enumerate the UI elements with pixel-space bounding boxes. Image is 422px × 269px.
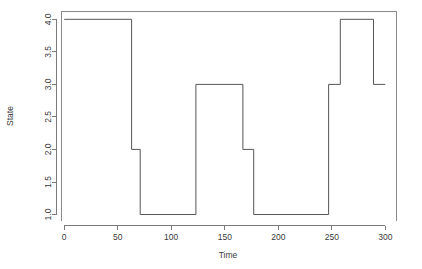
y-axis: 1.01.52.02.53.03.54.0: [43, 13, 56, 220]
y-tick-label: 4.0: [43, 13, 53, 25]
y-axis-title: State: [5, 106, 15, 126]
chart-canvas: 050100150200250300 1.01.52.02.53.03.54.0…: [0, 0, 422, 269]
y-tick-label: 1.5: [43, 176, 53, 188]
data-series-state: [64, 19, 385, 214]
x-tick-label: 100: [164, 232, 178, 242]
y-tick-label: 2.5: [43, 111, 53, 123]
x-tick-label: 150: [218, 232, 232, 242]
y-tick-label: 3.0: [43, 78, 53, 90]
x-axis-title: Time: [219, 250, 238, 260]
state-time-step-chart: 050100150200250300 1.01.52.02.53.03.54.0…: [0, 0, 422, 269]
x-tick-label: 0: [62, 232, 67, 242]
y-tick-label: 3.5: [43, 46, 53, 58]
x-tick-label: 250: [325, 232, 339, 242]
plot-frame: [61, 12, 396, 222]
y-tick-label: 2.0: [43, 143, 53, 155]
x-axis: 050100150200250300: [62, 226, 393, 242]
y-tick-label: 1.0: [43, 208, 53, 220]
x-tick-label: 50: [113, 232, 123, 242]
x-tick-label: 200: [271, 232, 285, 242]
x-tick-label: 300: [378, 232, 392, 242]
